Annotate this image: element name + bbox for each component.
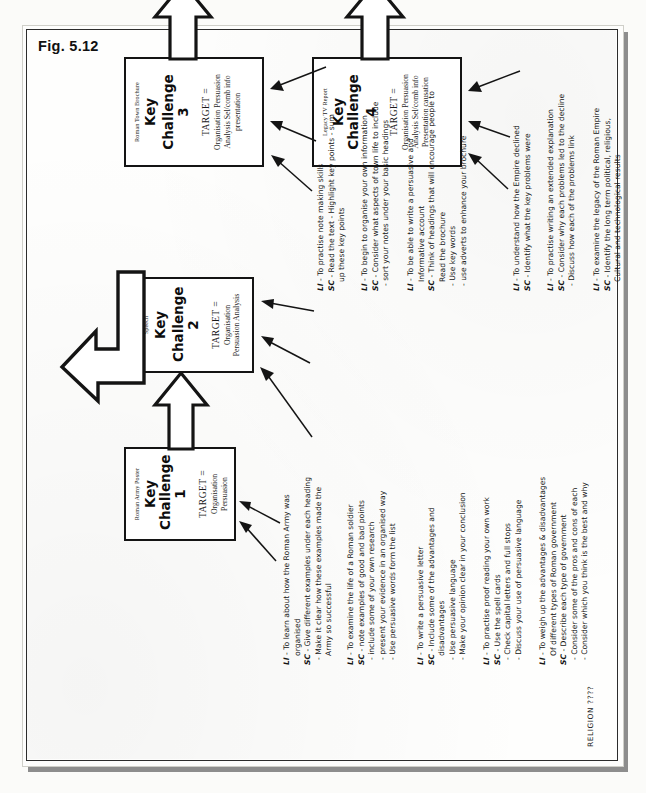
ann-label: SC [557, 280, 566, 291]
ann-label: LI [538, 657, 547, 665]
ann-text: - To practise proof reading your own wor… [482, 497, 491, 655]
ann-text: - To write a persuasive letter [416, 547, 425, 655]
ann-line: LI - To learn about how the Roman Army w… [282, 477, 293, 665]
annotation-block-4: LI - To practise proof reading your own … [482, 497, 524, 665]
ann-line: organised [293, 477, 304, 665]
ann-text: - Make your opinion clear in your conclu… [458, 492, 467, 660]
ann-text: - Make it clear how these examples made … [314, 487, 323, 660]
ann-text: Army so successful [324, 583, 333, 656]
kc1-target-label: TARGET = [197, 458, 208, 530]
ann-line: SC - Consider what aspects of town life … [371, 102, 382, 292]
key-challenge-1-box[interactable]: Roman Army Poster Key Challenge 1 TARGET… [124, 447, 236, 541]
ann-line: SC - Include some of the advantages and [427, 492, 438, 665]
annotation-block-9: LI - To understand how the Empire declin… [512, 125, 533, 291]
ann-text: disadvantages [437, 601, 446, 656]
ann-text: - Identify what the key problems were [523, 133, 532, 277]
key-challenge-3-box[interactable]: Roman Town Brochure Key Challenge 3 TARG… [124, 57, 264, 167]
kc1-target-item: Organisation [210, 474, 219, 514]
ann-text: - Describe each type of government [559, 514, 568, 651]
pointer-ann4-to-kc2 [258, 325, 312, 367]
kc3-title: Key [143, 68, 158, 156]
footer-note: RELIGION ???? [586, 686, 595, 747]
ann-text: - To examine the legacy of the Roman Emp… [592, 108, 601, 281]
ann-label: LI [592, 283, 601, 291]
ann-line: Cultural and technological results [613, 108, 624, 291]
ann-text: - To weigh up the advantages & disadvant… [538, 477, 547, 655]
ann-line: Army so successful [324, 477, 335, 665]
ann-text: - To learn about how the Roman Army was [282, 494, 291, 655]
ann-line: - Consider some of the pros and cons of … [570, 477, 581, 665]
ann-line: disadvantages [437, 492, 448, 665]
ann-line: SC - Identify the long term political, r… [603, 108, 614, 291]
ann-label: SC [327, 280, 336, 291]
kc2-title: Key [153, 288, 168, 362]
ann-line: - Discuss how each of the problems link [567, 94, 578, 291]
ann-label: SC [357, 654, 366, 665]
ann-text: - Discuss how each of the problems link [567, 135, 576, 286]
ann-label: SC [603, 280, 612, 291]
ann-label: SC [523, 280, 532, 291]
ann-text: - Identify the long term political, reli… [603, 118, 612, 278]
ann-label: LI [346, 657, 355, 665]
ann-text: - To be able to write a persuasive and [406, 138, 415, 281]
ann-line: LI - To examine the legacy of the Roman … [592, 108, 603, 291]
ann-line: SC - note examples of good and bad point… [357, 491, 368, 665]
kc3-source-line1: Roman Town [133, 108, 140, 142]
ann-line: - Use persuasive language [448, 492, 459, 665]
ann-label: SC [427, 654, 436, 665]
kc3-target-item: Organisation [213, 110, 222, 150]
ann-text: - To practise note making skills [316, 164, 325, 281]
ann-line: LI - To weigh up the advantages & disadv… [538, 477, 549, 665]
ann-label: SC [559, 654, 568, 665]
ann-text: - Discuss your use of persuasive languag… [514, 500, 523, 661]
pointer-ann2-to-kc1 [238, 493, 282, 527]
rotated-diagram-layer: Roman Army Poster Key Challenge 1 TARGET… [26, 29, 616, 759]
ann-text: - Think of headings that will encourage … [427, 91, 436, 278]
kc2-target-label: TARGET = [210, 288, 221, 362]
ann-text: - use adverts to enhance your brochure [459, 135, 468, 286]
ann-label: LI [416, 657, 425, 665]
ann-line: LI - To be able to write a persuasive an… [406, 91, 417, 291]
ann-line: - Consider which you think is the best a… [580, 477, 591, 665]
ann-text: Cultural and technological results [613, 154, 622, 282]
annotation-block-8: LI - To be able to write a persuasive an… [406, 91, 470, 291]
pointer-ann5-to-kc2 [258, 289, 316, 319]
ann-text: - To examine the life of a Roman soldier [346, 504, 355, 655]
kc2-target-item: Persuasion [232, 323, 241, 357]
ann-line: SC - Use the spell cards [493, 497, 504, 665]
pointer-ann6-to-kc3 [266, 145, 314, 193]
pointer-ann8-to-kc3 [266, 51, 328, 97]
ann-text: - To begin to organise your own informat… [360, 115, 369, 281]
ann-line: LI - To examine the life of a Roman sold… [346, 491, 357, 665]
ann-line: LI - To practise note making skills [316, 114, 327, 291]
ann-line: SC - Consider why each problems led to t… [557, 94, 568, 291]
ann-text: - Consider why each problems led to the … [557, 94, 566, 278]
kc3-target-item: Persuasion [213, 74, 222, 108]
annotation-block-10: LI - To practise writing an extended exp… [546, 94, 578, 291]
ann-text: - Read the text - Highlight key points -… [327, 114, 336, 278]
kc3-target-item: Sel/comb info [223, 75, 232, 119]
ann-text: - present your evidence in an organised … [378, 491, 387, 660]
ann-label: LI [546, 283, 555, 291]
ann-line: up these key points [337, 114, 348, 291]
scanned-page-background: Fig. 5.12 Roman Army Poster Key Challeng… [0, 0, 646, 793]
ann-line: SC - Read the text - Highlight key point… [327, 114, 338, 291]
ann-line: LI - To practise proof reading your own … [482, 497, 493, 665]
pointer-ann9-to-kc4 [464, 143, 510, 191]
kc2-target-item: Organisation [223, 305, 232, 345]
arrow-4-out [344, 0, 406, 59]
kc3-title-2: Challenge 3 [161, 68, 191, 156]
ann-text: - include some of your own research [367, 522, 376, 660]
kc2-target-item: Analysis [232, 294, 241, 321]
pointer-ann3-to-kc2 [256, 359, 314, 439]
pointer-ann7-to-kc3 [266, 111, 318, 145]
ann-text: - Consider what aspects of town life to … [371, 102, 380, 278]
ann-line: - Make your opinion clear in your conclu… [458, 492, 469, 665]
ann-line: Informative account [417, 91, 428, 291]
ann-text: - Use the spell cards [493, 574, 502, 651]
ann-line: - Use key words [448, 91, 459, 291]
kc1-number: 1 [173, 458, 188, 530]
ann-label: SC [493, 654, 502, 665]
ann-line: Of different types of Roman government [549, 477, 560, 665]
ann-line: LI - To write a persuasive letter [416, 492, 427, 665]
